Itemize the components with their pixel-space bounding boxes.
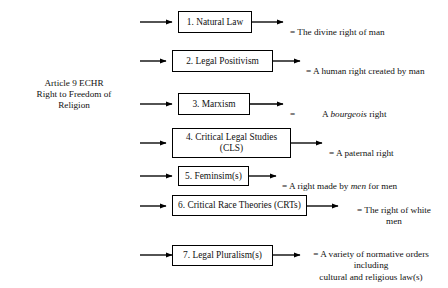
node-box-critical-race-theories[interactable]: 6. Critical Race Theories (CRTs)	[172, 195, 307, 216]
outcome-text-3: A bourgeois right	[322, 98, 387, 120]
outcome-body-7: A variety of normative orders including …	[319, 249, 429, 281]
outcome-text-4: = A paternal right	[329, 137, 394, 159]
outcome-body-6: The right of white men	[364, 205, 431, 226]
outcome-italic-3: bourgeois	[330, 109, 366, 119]
outcome-equals-3: =	[290, 98, 295, 120]
outcome-text-6: = The right of white men	[344, 194, 444, 228]
outcome-body-1: The divine right of man	[297, 27, 384, 37]
outcome-prefix-4: =	[329, 148, 336, 158]
node-box-legal-pluralisms[interactable]: 7. Legal Pluralism(s)	[172, 245, 273, 266]
outcome-text-2: = A human right created by man	[306, 55, 424, 77]
node-box-feminisms[interactable]: 5. Feminsim(s)	[178, 166, 249, 186]
outcome-prefix-2: =	[306, 66, 313, 76]
node-box-natural-law[interactable]: 1. Natural Law	[178, 11, 252, 33]
source-label-article9: Article 9 ECHR Right to Freedom of Relig…	[8, 78, 140, 112]
node-box-legal-positivism[interactable]: 2. Legal Positivism	[172, 50, 273, 72]
outcome-prefix-5: = A right made by	[282, 181, 351, 191]
outcome-equals-sign-3: =	[290, 109, 295, 119]
outcome-suffix-5: for men	[366, 181, 397, 191]
outcome-suffix-3: right	[367, 109, 387, 119]
outcome-body-4: A paternal right	[336, 148, 394, 158]
outcome-italic-5: men	[351, 181, 366, 191]
outcome-text-7: = A variety of normative orders includin…	[296, 238, 446, 283]
outcome-text-5: = A right made by men for men	[282, 170, 397, 192]
outcome-text-1: = The divine right of man	[290, 16, 385, 38]
diagram-canvas: Article 9 ECHR Right to Freedom of Relig…	[0, 0, 448, 288]
node-box-critical-legal-studies[interactable]: 4. Critical Legal Studies (CLS)	[172, 128, 291, 158]
node-box-marxism[interactable]: 3. Marxism	[178, 93, 250, 115]
outcome-body-2: A human right created by man	[313, 66, 425, 76]
